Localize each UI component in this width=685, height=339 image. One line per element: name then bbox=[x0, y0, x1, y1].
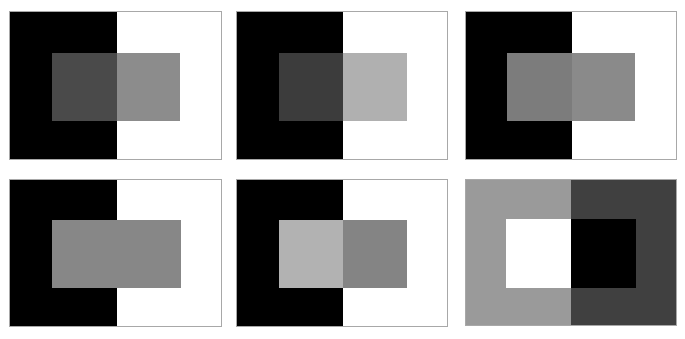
inner-left-patch bbox=[507, 53, 572, 121]
inner-left-patch bbox=[52, 53, 117, 121]
inner-right-patch bbox=[117, 53, 180, 121]
panel-1 bbox=[9, 11, 222, 160]
inner-right-patch bbox=[343, 53, 407, 121]
inner-left-patch bbox=[279, 53, 343, 121]
panel-4 bbox=[9, 179, 222, 327]
inner-right-patch bbox=[571, 219, 636, 288]
panel-6 bbox=[465, 179, 677, 326]
inner-right-patch bbox=[117, 220, 181, 288]
inner-left-patch bbox=[279, 220, 343, 288]
panel-3 bbox=[465, 11, 677, 160]
inner-right-patch bbox=[343, 220, 407, 288]
inner-left-patch bbox=[506, 219, 571, 288]
inner-right-patch bbox=[572, 53, 635, 121]
panel-5 bbox=[236, 179, 448, 327]
panel-2 bbox=[236, 11, 448, 160]
inner-left-patch bbox=[52, 220, 117, 288]
